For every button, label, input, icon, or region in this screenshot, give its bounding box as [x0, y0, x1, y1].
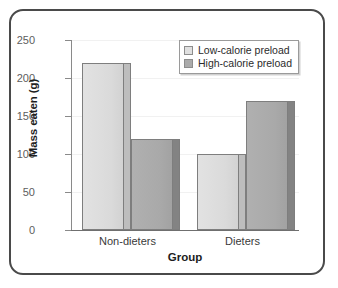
x-axis-line — [71, 230, 299, 231]
bar-side-face — [288, 101, 295, 230]
bar-front-face — [131, 139, 173, 230]
legend: Low-calorie preload High-calorie preload — [179, 40, 299, 74]
bar-side-face — [124, 63, 131, 230]
legend-label-high-calorie: High-calorie preload — [198, 58, 292, 69]
bar-front-face — [197, 154, 239, 230]
bar-non-dieters-low-calorie — [82, 63, 124, 230]
y-tick-mark-50 — [65, 192, 72, 193]
bar-front-face — [82, 63, 124, 230]
x-axis-title: Group — [71, 251, 299, 263]
bar-side-face — [173, 139, 180, 230]
y-tick-mark-150 — [65, 116, 72, 117]
legend-swatch-icon-high-calorie — [184, 59, 193, 68]
legend-item-high-calorie-preload: High-calorie preload — [184, 57, 292, 70]
y-tick-label-0: 0 — [0, 225, 35, 236]
bar-chart-plot-area: 250 200 150 100 50 0 Mass eaten (g) — [11, 11, 327, 277]
y-axis-title: Mass eaten (g) — [27, 58, 39, 178]
legend-label-low-calorie: Low-calorie preload — [198, 45, 290, 56]
y-tick-label-250: 250 — [0, 35, 35, 46]
bar-front-face — [246, 101, 288, 230]
y-tick-mark-250 — [65, 40, 72, 41]
bar-dieters-high-calorie — [246, 101, 288, 230]
y-tick-mark-100 — [65, 154, 72, 155]
bar-non-dieters-high-calorie — [131, 139, 173, 230]
figure-frame: 250 200 150 100 50 0 Mass eaten (g) — [9, 9, 325, 275]
y-tick-label-50: 50 — [0, 187, 35, 198]
y-tick-mark-200 — [65, 78, 72, 79]
x-category-label-non-dieters: Non-dieters — [82, 235, 173, 247]
legend-swatch-icon-low-calorie — [184, 46, 193, 55]
x-category-label-dieters: Dieters — [197, 235, 288, 247]
bar-dieters-low-calorie — [197, 154, 239, 230]
y-axis-line — [71, 40, 72, 230]
legend-item-low-calorie-preload: Low-calorie preload — [184, 44, 292, 57]
bar-side-face — [239, 154, 246, 230]
